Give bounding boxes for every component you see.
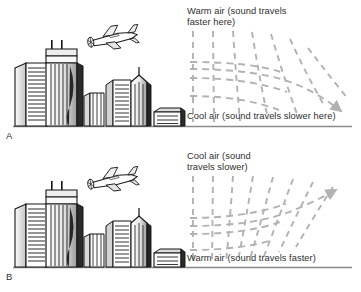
wavefronts-a — [193, 31, 348, 122]
building-3 — [84, 93, 104, 126]
building-5 — [131, 67, 151, 126]
panel-a-graphic — [0, 0, 361, 146]
city-skyline — [15, 181, 185, 267]
ray-grid-a — [190, 31, 348, 122]
panel-b: Cool air (sound travels slower) Warm air… — [0, 146, 361, 292]
building-5 — [131, 208, 151, 267]
building-6 — [154, 108, 185, 126]
building-2 — [46, 181, 83, 267]
building-4 — [106, 80, 131, 126]
refraction-figure: Warm air (sound travels faster here) Coo… — [0, 0, 361, 292]
panel-b-letter: B — [6, 272, 12, 282]
ray-grid-b — [190, 176, 336, 264]
building-6 — [154, 249, 185, 267]
panel-a-top-label: Warm air (sound travels faster here) — [187, 6, 286, 29]
panel-b-bottom-label: Warm air (sound travels faster) — [187, 253, 316, 264]
panel-a-letter: A — [6, 131, 12, 141]
airplane-icon — [86, 22, 141, 52]
building-1 — [15, 63, 47, 126]
building-4 — [106, 221, 131, 267]
building-1 — [15, 204, 47, 267]
panel-a-bottom-label: Cool air (sound travels slower here) — [187, 111, 336, 122]
panel-b-graphic — [0, 146, 361, 292]
building-3 — [84, 234, 104, 267]
city-skyline — [15, 40, 185, 126]
building-2 — [46, 40, 83, 126]
sound-rays-b — [190, 204, 286, 250]
panel-b-top-label: Cool air (sound travels slower) — [187, 151, 251, 174]
airplane-icon — [86, 164, 141, 194]
panel-a: Warm air (sound travels faster here) Coo… — [0, 0, 361, 146]
